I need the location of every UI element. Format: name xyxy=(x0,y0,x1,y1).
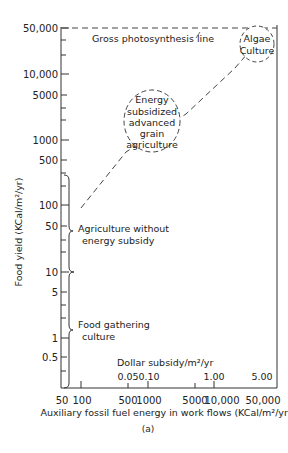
dollar-tick-0-05: 0.05 xyxy=(117,371,138,382)
y-axis-label: Food yield (KCal/m²/yr) xyxy=(13,178,24,287)
svg-text:grain: grain xyxy=(140,128,164,139)
y-tick-100: 100 xyxy=(39,200,58,211)
dollar-tick-5-00: 5.00 xyxy=(251,371,272,382)
y-tick-10000: 10,000 xyxy=(23,69,58,80)
y-tick-50000: 50,000 xyxy=(23,23,58,34)
svg-text:energy subsidy: energy subsidy xyxy=(82,235,155,246)
y-tick-0-5: 0.5 xyxy=(42,352,58,363)
y-tick-50: 50 xyxy=(45,221,58,232)
dollar-tick-0-10: 0.10 xyxy=(138,371,159,382)
y-tick-1: 1 xyxy=(52,333,58,344)
y-tick-5: 5 xyxy=(52,287,58,298)
x-tick-1000: 1000 xyxy=(136,395,161,406)
svg-text:Agriculture without: Agriculture without xyxy=(78,223,169,234)
y-tick-10: 10 xyxy=(45,267,58,278)
svg-text:Culture: Culture xyxy=(240,45,275,56)
x-ticks xyxy=(81,381,214,388)
x-tick-10000: 10,000 xyxy=(205,395,240,406)
dollar-tick-labels: 0.05 0.10 1.00 5.00 xyxy=(117,371,272,382)
y-tick-5000: 5000 xyxy=(33,90,58,101)
x-axis-label: Auxiliary fossil fuel energy in work flo… xyxy=(40,407,288,418)
x-tick-labels: 50 100 500 1000 5000 10,000 50,000 xyxy=(56,395,281,406)
svg-text:culture: culture xyxy=(82,331,115,342)
x-tick-500: 500 xyxy=(118,395,137,406)
y-major-ticks xyxy=(61,28,69,357)
x-tick-50: 50 xyxy=(56,395,69,406)
x-tick-100: 100 xyxy=(72,395,91,406)
y-tick-500: 500 xyxy=(39,155,58,166)
food-gathering-label: Food gathering culture xyxy=(78,319,150,342)
dollar-tick-1-00: 1.00 xyxy=(203,371,224,382)
algae-culture-label: Algae Culture xyxy=(240,33,275,56)
y-tick-1000: 1000 xyxy=(33,135,58,146)
svg-text:Energy: Energy xyxy=(135,94,169,105)
x-tick-50000: 50,000 xyxy=(246,395,281,406)
gross-photosynthesis-label: Gross photosynthesis line xyxy=(92,33,214,44)
svg-text:agriculture: agriculture xyxy=(126,139,178,150)
chart: 50,000 10,000 5000 1000 500 100 50 10 5 … xyxy=(0,0,288,453)
agriculture-brace xyxy=(64,175,74,272)
svg-text:subsidized: subsidized xyxy=(127,106,177,117)
y-tick-labels: 50,000 10,000 5000 1000 500 100 50 10 5 … xyxy=(23,23,58,363)
agriculture-without-subsidy-label: Agriculture without energy subsidy xyxy=(78,223,169,246)
algae-culture-circle xyxy=(240,26,274,62)
figure-caption: (a) xyxy=(142,424,155,434)
svg-text:Algae: Algae xyxy=(244,33,271,44)
dollar-axis-label: Dollar subsidy/m²/yr xyxy=(117,357,213,368)
svg-text:advanced: advanced xyxy=(129,117,175,128)
svg-text:Food gathering: Food gathering xyxy=(78,319,150,330)
